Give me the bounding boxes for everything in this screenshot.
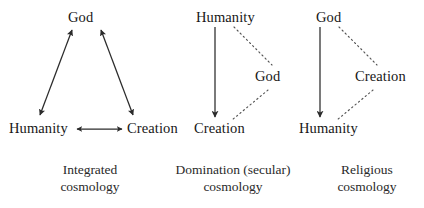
node-label-humanity-d1: Humanity	[9, 121, 68, 136]
cosmology-diagram-figure: God Humanity Creation Humanity God Creat…	[0, 0, 424, 208]
node-label-creation-d1: Creation	[127, 121, 178, 136]
node-label-humanity-d3: Humanity	[299, 121, 358, 136]
caption-diagram-3: Religious cosmology	[312, 161, 422, 195]
caption-diagram-2: Domination (secular) cosmology	[158, 161, 308, 195]
caption-diagram-1: Integrated cosmology	[20, 161, 160, 195]
caption-line-2-d1: cosmology	[20, 178, 160, 195]
edge-creation-humanity-dotted	[337, 90, 373, 120]
caption-line-2-d2: cosmology	[158, 178, 308, 195]
caption-line-1-d2: Domination (secular)	[158, 161, 308, 178]
edge-humanity-god-dotted	[234, 27, 272, 65]
edge-god-creation-dotted	[232, 90, 268, 120]
node-label-god-d1: God	[68, 10, 93, 25]
caption-line-1-d3: Religious	[312, 161, 422, 178]
edge-humanity-god	[40, 30, 72, 115]
caption-line-2-d3: cosmology	[312, 178, 422, 195]
edge-god-creation-dotted-3	[339, 27, 377, 65]
node-label-creation-d3: Creation	[355, 69, 406, 84]
node-label-creation-d2: Creation	[194, 121, 245, 136]
node-label-god-d2: God	[255, 69, 280, 84]
caption-line-1-d1: Integrated	[20, 161, 160, 178]
diagram-1-edges	[40, 30, 133, 129]
edge-god-creation	[101, 30, 133, 115]
node-label-humanity-d2: Humanity	[196, 10, 255, 25]
node-label-god-d3: God	[316, 10, 341, 25]
